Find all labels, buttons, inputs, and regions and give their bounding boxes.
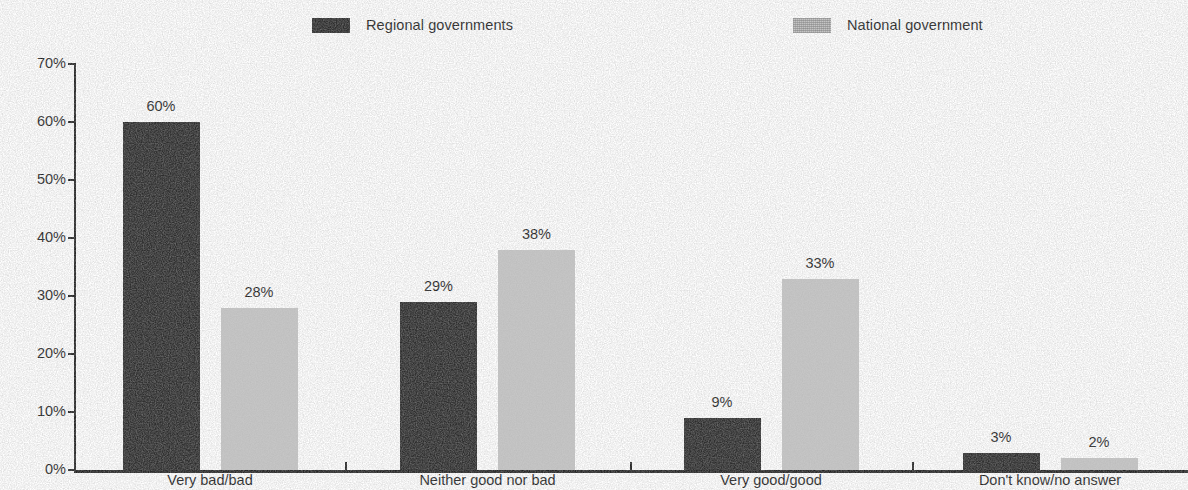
- y-axis-tick: [68, 411, 76, 413]
- bar-value-label: 3%: [991, 429, 1012, 445]
- bar: [498, 250, 575, 470]
- y-axis-tick-label: 10%: [8, 403, 66, 419]
- y-axis-tick: [68, 237, 76, 239]
- bar: [123, 122, 200, 470]
- grouped-bar-chart: Regional governments National government…: [0, 0, 1188, 490]
- bar-value-label: 9%: [712, 394, 733, 410]
- y-axis-tick: [68, 353, 76, 355]
- x-axis-tick: [345, 462, 347, 471]
- y-axis-tick: [68, 469, 76, 471]
- bar: [782, 279, 859, 470]
- x-axis-category-label: Very bad/bad: [167, 472, 252, 488]
- y-axis-tick-label: 40%: [8, 229, 66, 245]
- x-axis-tick: [912, 462, 914, 471]
- bar: [963, 453, 1040, 470]
- bar: [221, 308, 298, 470]
- y-axis-tick-label: 30%: [8, 287, 66, 303]
- bar-value-label: 29%: [424, 278, 453, 294]
- y-axis-tick: [68, 63, 76, 65]
- bar: [684, 418, 761, 470]
- y-axis-tick-label: 0%: [8, 461, 66, 477]
- y-axis-tick: [68, 295, 76, 297]
- y-axis-tick-label: 60%: [8, 113, 66, 129]
- y-axis-tick: [68, 179, 76, 181]
- bar-value-label: 38%: [522, 226, 551, 242]
- bar-value-label: 28%: [244, 284, 273, 300]
- x-axis-category-label: Very good/good: [720, 472, 822, 488]
- x-axis-category-label: Neither good nor bad: [419, 472, 555, 488]
- plot-area: 0%10%20%30%40%50%60%70% 60%28%29%38%9%33…: [0, 0, 1188, 490]
- y-axis-tick-label: 70%: [8, 55, 66, 71]
- x-axis-category-label: Don't know/no answer: [979, 472, 1121, 488]
- bar: [1061, 458, 1138, 470]
- y-axis-tick: [68, 121, 76, 123]
- y-axis-tick-label: 20%: [8, 345, 66, 361]
- bar: [400, 302, 477, 470]
- x-axis-tick: [630, 462, 632, 471]
- bar-value-label: 33%: [805, 255, 834, 271]
- y-axis-tick-label: 50%: [8, 171, 66, 187]
- bar-value-label: 60%: [146, 98, 175, 114]
- bar-value-label: 2%: [1089, 434, 1110, 450]
